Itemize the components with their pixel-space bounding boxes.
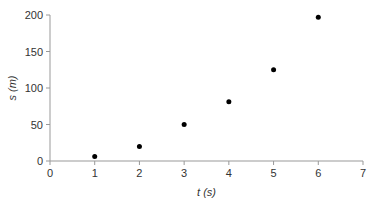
x-tick-label: 0 (47, 167, 53, 179)
data-point (316, 15, 321, 20)
x-tick-label: 3 (181, 167, 187, 179)
data-point (92, 154, 97, 159)
x-tick-label: 5 (271, 167, 277, 179)
x-tick-label: 4 (226, 167, 232, 179)
y-tick-label: 150 (25, 46, 43, 58)
axes: 01234567050100150200 (25, 9, 366, 179)
x-tick-label: 2 (136, 167, 142, 179)
x-tick-label: 1 (92, 167, 98, 179)
data-point (137, 144, 142, 149)
y-tick-label: 0 (37, 155, 43, 167)
x-tick-label: 7 (360, 167, 366, 179)
scatter-chart: 01234567050100150200 s (m) t (s) (0, 0, 374, 205)
data-point (226, 99, 231, 104)
y-tick-label: 100 (25, 82, 43, 94)
x-tick-label: 6 (315, 167, 321, 179)
data-points (92, 15, 321, 159)
y-tick-label: 200 (25, 9, 43, 21)
data-point (271, 67, 276, 72)
y-tick-label: 50 (31, 119, 43, 131)
y-axis-label: s (m) (6, 75, 18, 100)
x-axis-label: t (s) (197, 186, 216, 198)
data-point (182, 122, 187, 127)
